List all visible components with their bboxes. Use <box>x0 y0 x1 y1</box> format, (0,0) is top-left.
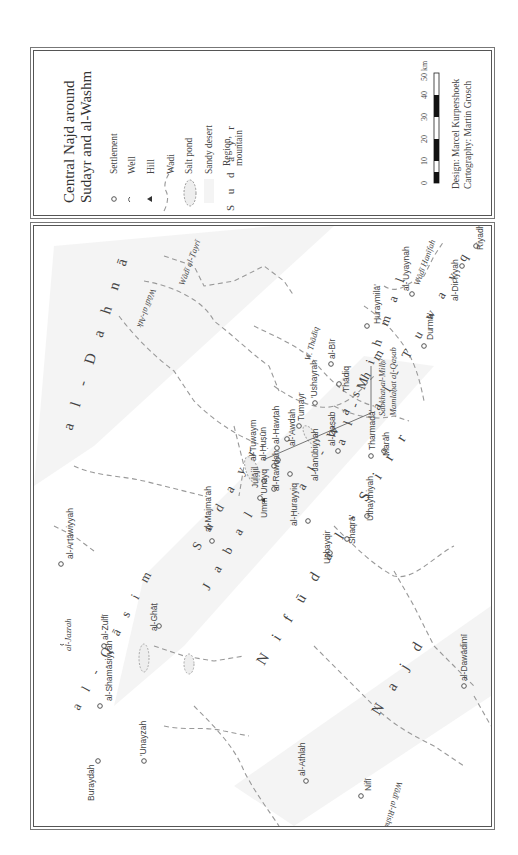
svg-text:Thādiq: Thādiq <box>341 366 351 392</box>
legend-salt-pond-label: Salt pond <box>184 138 194 174</box>
salt-pond-qasim-1 <box>139 644 149 672</box>
salt-pond-symbol-icon <box>184 180 196 206</box>
svg-text:al-Majma'ah: al-Majma'ah <box>203 486 213 532</box>
legend-region-label-2: mountain <box>234 130 244 166</box>
scale-tick-0: 0 <box>420 181 429 185</box>
settlement-uthaythiyah: Uthaythiyah <box>365 476 375 521</box>
settlement-hawtah: al-Hawṭah <box>271 405 281 450</box>
legend-title-line2: Sudayr and al-Washm <box>78 71 94 203</box>
settlement-huraymila: Huraymilā' <box>365 284 382 329</box>
wadi-symbol-icon <box>164 169 172 211</box>
svg-text:al-Arṭāwiyyah: al-Arṭāwiyyah <box>65 508 75 559</box>
svg-text:al-Ghāṭ: al-Ghāṭ <box>149 602 159 631</box>
svg-text:al-Qaṣab: al-Qaṣab <box>327 411 337 446</box>
svg-text:Marāh: Marāh <box>381 432 391 456</box>
legend-title-line1: Central Najd around <box>61 80 77 203</box>
svg-text:al-Ḥurayyiq: al-Ḥurayyiq <box>289 483 299 526</box>
svg-text:al-Hawṭah: al-Hawṭah <box>271 405 281 444</box>
credit-cartography: Cartography: Martin Grosch <box>463 81 473 189</box>
legend-region-label-1: Region, <box>222 136 232 166</box>
svg-text:Buraydah: Buraydah <box>86 764 96 801</box>
svg-text:al-Athlah: al-Athlah <box>297 742 307 776</box>
svg-text:Durmā': Durmā' <box>425 312 435 340</box>
legend-wadi-label: Wadi <box>166 154 176 174</box>
svg-text:al-Jazrah: al-Jazrah <box>63 618 73 651</box>
svg-text:Riyadh: Riyadh <box>475 226 485 250</box>
salt-pond-qasim-2 <box>184 654 194 674</box>
svg-text:al-Tuwaym: al-Tuwaym <box>248 420 258 461</box>
settlement-marah: Marāh <box>381 432 391 456</box>
settlement-ushayrah: 'Ushayrah <box>309 360 319 406</box>
well-symbol-icon <box>129 197 130 202</box>
settlement-dawadimi: al-Dawādimī <box>459 633 469 688</box>
svg-text:al-Shamāsiyyah: al-Shamāsiyyah <box>104 640 114 701</box>
svg-text:al-Zulfī: al-Zulfī <box>100 613 110 640</box>
legend-well-label: Well <box>127 156 137 174</box>
svg-text:al-'Uyaynah: al-'Uyaynah <box>401 246 411 291</box>
svg-text:al-Ḥuṣūn: al-Ḥuṣūn <box>258 427 268 461</box>
scale-bar: 0 10 20 30 40 50 km <box>420 60 439 185</box>
settlement-unayzah: 'Unayzah <box>138 721 148 764</box>
settlement-tharmada: Tharmadā' <box>367 409 377 458</box>
svg-text:Uthaythiyah: Uthaythiyah <box>365 476 375 521</box>
scale-tick-40: 40 <box>420 91 429 99</box>
svg-text:Umm 'Unayq: Umm 'Unayq <box>259 469 269 518</box>
legend-hill-label: Hill <box>146 159 156 174</box>
scale-tick-50: 50 km <box>420 60 429 81</box>
svg-text:al-Rawḍah: al-Rawḍah <box>271 450 281 491</box>
settlement-awdah: al-'Awdah <box>285 409 297 446</box>
wadi-label-hanifah: Wādī Ḥanīfah <box>411 238 437 286</box>
scale-tick-30: 30 <box>420 113 429 121</box>
svg-text:'Ushayrah: 'Ushayrah <box>309 360 319 398</box>
settlement-riyadh: Riyadh <box>474 226 485 250</box>
credit-design: Design: Marcel Kurpershoek <box>451 78 461 189</box>
settlement-ushayqir: Ushayqir <box>322 530 332 564</box>
legend-settlement-label: Settlement <box>109 133 119 174</box>
sandy-desert-symbol-icon <box>204 179 214 203</box>
legend-panel: Central Najd around Sudayr and al-Washm … <box>33 50 492 216</box>
hill-symbol-icon <box>147 196 152 202</box>
wadi-label-risha: Wādī al-Rishā <box>382 780 405 826</box>
svg-text:al-'Awdah: al-'Awdah <box>287 409 297 446</box>
map-svg: a l - D a h n ā S u d a y r J a b a l a … <box>34 226 491 826</box>
settlement-dir-iyyah: al-Dir'iyyah <box>450 259 464 301</box>
scale-tick-20: 20 <box>420 135 429 143</box>
settlement-uyaynah: al-'Uyaynah <box>401 246 414 296</box>
settlement-al-bir: al-Bīr <box>327 339 337 367</box>
settlement-rawdah: al-Rawḍah <box>271 450 281 491</box>
settlement-symbol-icon <box>112 197 117 202</box>
svg-text:al-Dawādimī: al-Dawādimī <box>459 633 469 681</box>
salt-pond-label-1: Sabkhat al-Milḥ/ <box>377 357 387 416</box>
svg-text:'Unayzah: 'Unayzah <box>138 721 148 756</box>
svg-text:al-Bīr: al-Bīr <box>327 339 337 359</box>
settlement-artawiyyah: al-Arṭāwiyyah <box>59 508 75 567</box>
wadi-label-thadiq: W. Thādiq <box>302 325 321 362</box>
svg-text:Huraymilā': Huraymilā' <box>372 284 382 324</box>
svg-text:al-Janūbiyyah: al-Janūbiyyah <box>310 428 320 481</box>
svg-text:Ushayqir: Ushayqir <box>322 530 332 564</box>
legend-svg: Central Najd around Sudayr and al-Washm … <box>34 51 491 215</box>
svg-text:al-Dir'iyyah: al-Dir'iyyah <box>450 259 460 301</box>
salt-pond-label-2: Mamlaḥat al-Qaṣab <box>388 347 398 417</box>
settlement-jazrah: al-Jazrah <box>60 618 73 651</box>
legend-sandy-desert-label: Sandy desert <box>204 125 214 174</box>
svg-text:Nifī: Nifī <box>363 778 373 791</box>
map-panel: a l - D a h n ā S u d a y r J a b a l a … <box>33 225 492 827</box>
svg-text:Tharmadā': Tharmadā' <box>367 409 377 450</box>
settlement-umm-unayq: Umm 'Unayq <box>258 469 269 518</box>
svg-text:Shaqrā': Shaqrā' <box>347 515 357 544</box>
settlement-shaqra: Shaqrā' <box>345 515 357 544</box>
settlement-buraydah: Buraydah <box>86 759 100 801</box>
scale-tick-10: 10 <box>420 157 429 165</box>
svg-text:Tumayr: Tumayr <box>296 392 306 421</box>
